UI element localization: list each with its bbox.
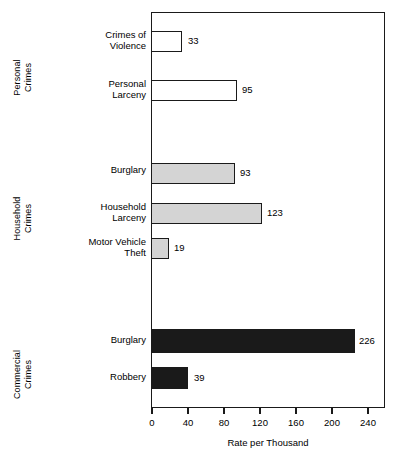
bar-household-burglary[interactable]: [151, 163, 235, 184]
bar-value-household-larceny: 123: [267, 208, 283, 218]
bar-household-larceny[interactable]: [151, 203, 262, 224]
x-tick-label-160: 160: [276, 417, 316, 428]
group-label-personal-crimes-text: Personal Crimes: [12, 37, 33, 117]
x-tick-label-40: 40: [168, 417, 208, 428]
bar-personal-larceny[interactable]: [151, 80, 237, 101]
bar-commercial-robbery[interactable]: [151, 367, 188, 389]
group-label-household-crimes: Household Crimes: [0, 197, 62, 221]
bar-value-personal-larceny: 95: [242, 85, 253, 95]
group-label-personal-crimes: Personal Crimes: [0, 56, 62, 80]
x-axis-title: Rate per Thousand: [151, 437, 385, 448]
x-tick-0: [151, 408, 153, 414]
x-tick-240: [367, 408, 369, 414]
bar-value-motor-vehicle-theft: 19: [174, 243, 185, 253]
bar-label-commercial-burglary: Burglary: [56, 334, 146, 345]
bar-label-commercial-robbery: Robbery: [56, 371, 146, 382]
bar-value-commercial-robbery: 39: [194, 373, 205, 383]
x-tick-label-0: 0: [132, 417, 172, 428]
bar-value-crimes-of-violence: 33: [188, 36, 199, 46]
group-label-commercial-crimes-text: Commercial Crimes: [12, 334, 33, 414]
x-tick-160: [295, 408, 297, 414]
x-tick-label-120: 120: [240, 417, 280, 428]
x-tick-label-80: 80: [204, 417, 244, 428]
bar-label-crimes-of-violence: Crimes of Violence: [56, 29, 146, 51]
bar-value-commercial-burglary: 226: [359, 336, 375, 346]
x-tick-40: [187, 408, 189, 414]
x-tick-200: [331, 408, 333, 414]
group-label-commercial-crimes: Commercial Crimes: [0, 353, 62, 377]
x-tick-label-200: 200: [312, 417, 352, 428]
bar-label-motor-vehicle-theft: Motor Vehicle Theft: [46, 236, 146, 258]
bar-commercial-burglary[interactable]: [151, 329, 355, 353]
bar-value-household-burglary: 93: [240, 168, 251, 178]
bar-label-household-burglary: Burglary: [56, 164, 146, 175]
bar-label-personal-larceny: Personal Larceny: [56, 78, 146, 100]
x-tick-120: [259, 408, 261, 414]
x-tick-80: [223, 408, 225, 414]
bar-motor-vehicle-theft[interactable]: [151, 238, 169, 259]
x-tick-label-240: 240: [348, 417, 388, 428]
bar-chart-figure: Personal Crimes Household Crimes Commerc…: [0, 0, 399, 464]
group-label-household-crimes-text: Household Crimes: [12, 178, 33, 258]
bar-crimes-of-violence[interactable]: [151, 31, 182, 52]
bar-label-household-larceny: Household Larceny: [56, 201, 146, 223]
